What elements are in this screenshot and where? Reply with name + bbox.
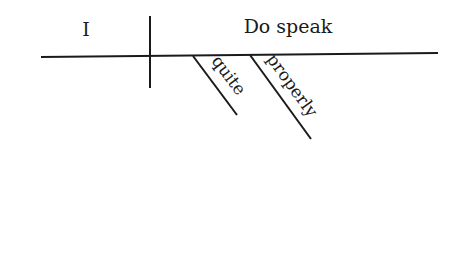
subject-word: I [82,18,90,40]
sentence-diagram: I Do speak quite properly [0,0,467,273]
baseline [41,53,438,57]
predicate-word: Do speak [244,15,333,37]
modifier-word-quite: quite [208,51,250,98]
